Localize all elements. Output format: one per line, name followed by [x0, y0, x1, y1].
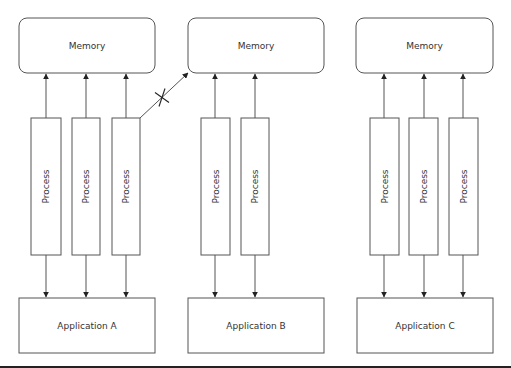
process-label: Process — [121, 169, 131, 203]
process-memory-isolation-diagram: MemoryApplication AProcessProcessProcess… — [0, 0, 511, 368]
application-label: Application C — [395, 321, 454, 331]
memory-box: Memory — [356, 18, 493, 73]
application-box: Application C — [357, 298, 493, 353]
process-box: Process — [370, 74, 399, 297]
memory-label: Memory — [406, 41, 443, 51]
process-box: Process — [31, 74, 61, 297]
blocked-access-arrow — [140, 73, 188, 118]
group-a: MemoryApplication AProcessProcessProcess — [19, 18, 155, 353]
process-box: Process — [449, 74, 478, 297]
memory-label: Memory — [238, 41, 275, 51]
process-box: Process — [112, 74, 140, 297]
memory-box: Memory — [188, 18, 324, 73]
process-box: Process — [201, 74, 230, 297]
memory-box: Memory — [19, 18, 155, 73]
process-box: Process — [409, 74, 438, 297]
blocked-x-icon — [155, 89, 169, 107]
process-box: Process — [241, 74, 269, 297]
process-label: Process — [41, 169, 51, 203]
process-label: Process — [380, 169, 390, 203]
application-box: Application B — [188, 298, 324, 353]
application-label: Application A — [57, 321, 117, 331]
process-label: Process — [459, 169, 469, 203]
memory-label: Memory — [69, 41, 106, 51]
application-box: Application A — [19, 298, 155, 353]
application-label: Application B — [226, 321, 285, 331]
group-c: MemoryApplication CProcessProcessProcess — [356, 18, 493, 353]
process-label: Process — [250, 169, 260, 203]
group-b: MemoryApplication BProcessProcess — [188, 18, 324, 353]
process-label: Process — [81, 169, 91, 203]
process-label: Process — [419, 169, 429, 203]
process-box: Process — [72, 74, 100, 297]
process-label: Process — [211, 169, 221, 203]
